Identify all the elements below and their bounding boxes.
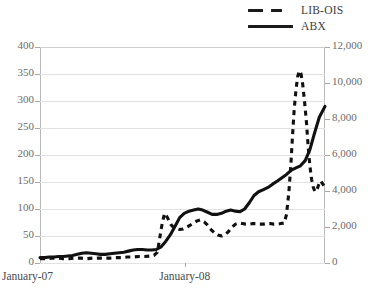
right-tick-label: 10,000 xyxy=(332,75,362,87)
x-tick-label: January-07 xyxy=(2,270,53,282)
legend-item-lib-ois: LIB-OIS xyxy=(248,2,376,18)
left-tick-label: 150 xyxy=(0,174,34,186)
left-tick xyxy=(35,263,40,264)
left-tick-label: 400 xyxy=(0,39,34,51)
left-tick-label: 50 xyxy=(0,228,34,240)
right-tick-label: 8,000 xyxy=(332,111,357,123)
series-line-abx xyxy=(40,106,325,257)
series-lines xyxy=(40,47,325,263)
left-tick-label: 200 xyxy=(0,147,34,159)
left-tick-label: 0 xyxy=(0,255,34,267)
left-tick-label: 250 xyxy=(0,120,34,132)
right-tick xyxy=(325,227,330,228)
chart-container: LIB-OIS ABX 050100150200250300350400 02,… xyxy=(0,0,378,295)
legend-label-abx: ABX xyxy=(301,20,326,32)
right-tick xyxy=(325,263,330,264)
gridline xyxy=(40,263,325,264)
right-tick-label: 4,000 xyxy=(332,183,357,195)
right-tick xyxy=(325,83,330,84)
chart-legend: LIB-OIS ABX xyxy=(248,2,376,34)
plot-area: 050100150200250300350400 02,0004,0006,00… xyxy=(40,47,325,263)
x-tick-label: January-08 xyxy=(159,270,210,282)
right-tick-label: 6,000 xyxy=(332,147,357,159)
legend-swatch-dashed xyxy=(248,5,296,16)
left-tick-label: 350 xyxy=(0,66,34,78)
left-tick-label: 300 xyxy=(0,93,34,105)
right-tick-label: 0 xyxy=(332,255,338,267)
right-tick-label: 12,000 xyxy=(332,39,362,51)
legend-swatch-solid xyxy=(248,21,296,32)
x-tick xyxy=(185,263,186,267)
right-tick xyxy=(325,191,330,192)
right-tick xyxy=(325,155,330,156)
right-tick-label: 2,000 xyxy=(332,219,357,231)
left-tick-label: 100 xyxy=(0,201,34,213)
right-tick xyxy=(325,47,330,48)
legend-item-abx: ABX xyxy=(248,18,376,34)
legend-label-lib-ois: LIB-OIS xyxy=(301,4,343,16)
right-tick xyxy=(325,119,330,120)
series-line-lib-ois xyxy=(40,71,325,259)
